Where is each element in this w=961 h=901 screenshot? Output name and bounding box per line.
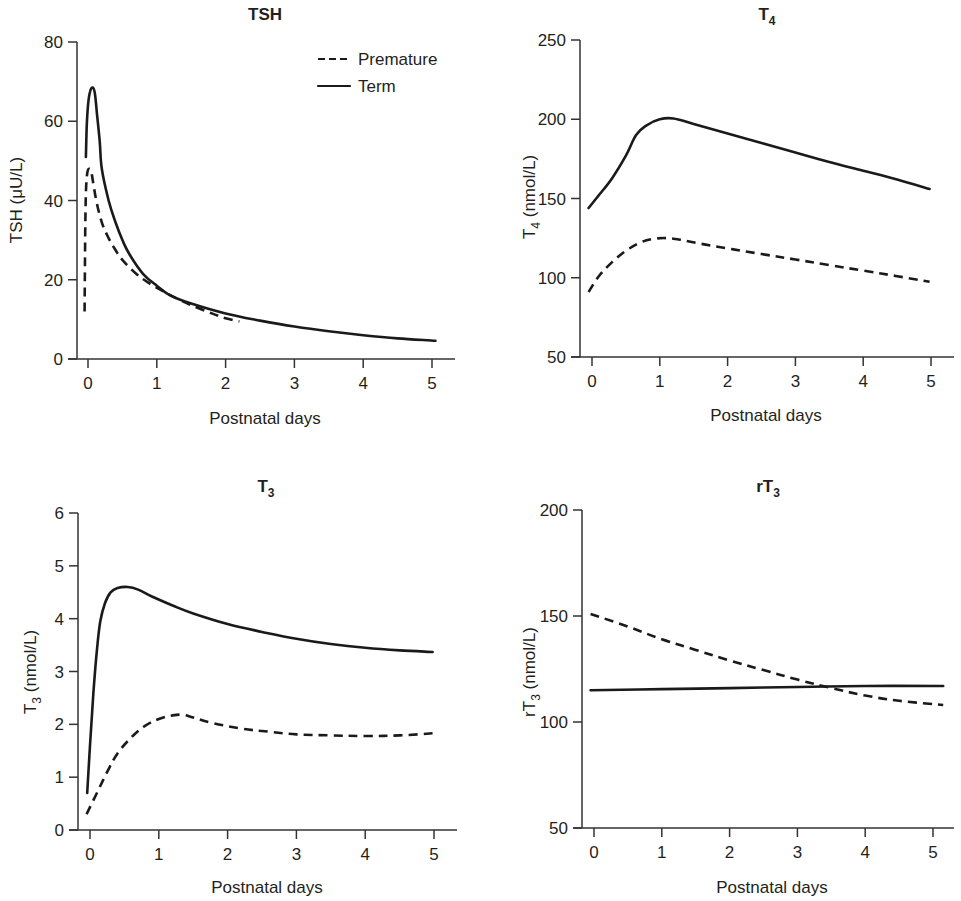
x-tick-label: 3 [793,843,802,862]
y-tick-label: 60 [44,112,63,131]
series-term [86,88,436,341]
plot-area: 50100150200012345 [540,501,954,862]
series-term [589,118,930,208]
y-axis-label: rT3 (nmol/L) [520,627,543,717]
y-tick-label: 200 [538,110,566,129]
y-tick-label: 50 [549,819,568,838]
y-tick-label: 1 [55,768,64,787]
y-tick-label: 0 [55,821,64,840]
panel-rt3: rT3 50100150200012345 Postnatal days rT3… [520,477,954,897]
x-tick-label: 0 [587,372,596,391]
y-tick-label: 2 [55,715,64,734]
y-tick-label: 100 [538,269,566,288]
x-tick-label: 3 [791,372,800,391]
series-term [87,587,432,793]
panel-t3: T3 0123456012345 Postnatal days T3 (nmol… [21,477,457,897]
x-tick-label: 3 [292,845,301,864]
series-premature [589,238,930,292]
x-tick-label: 4 [360,845,369,864]
x-tick-label: 5 [926,372,935,391]
x-tick-label: 5 [427,374,436,393]
panel-tsh: TSH 020406080012345 Postnatal days TSH (… [7,5,455,428]
x-tick-label: 1 [154,845,163,864]
y-axis-label: TSH (μU/L) [7,157,26,243]
x-tick-label: 3 [290,374,299,393]
x-tick-label: 2 [221,374,230,393]
y-tick-label: 150 [538,190,566,209]
x-axis-label: Postnatal days [710,406,822,425]
y-tick-label: 50 [547,348,566,367]
y-tick-label: 5 [55,557,64,576]
panel-title: T4 [758,5,775,28]
x-axis-label: Postnatal days [211,878,323,897]
y-tick-label: 150 [540,607,568,626]
plot-area: 50100150200250012345 [538,31,954,391]
x-tick-label: 2 [223,845,232,864]
series-premature [85,169,240,322]
series-premature [591,614,944,705]
y-tick-label: 200 [540,501,568,520]
y-tick-label: 100 [540,713,568,732]
y-axis-label: T3 (nmol/L) [21,630,44,714]
x-tick-label: 0 [83,374,92,393]
x-tick-label: 1 [152,374,161,393]
y-tick-label: 20 [44,271,63,290]
legend-label-term: Term [358,77,396,96]
series-term [591,686,944,690]
panel-title: rT3 [756,477,780,500]
x-tick-label: 4 [860,843,869,862]
y-tick-label: 0 [54,350,63,369]
x-axis-label: Postnatal days [209,409,321,428]
x-tick-label: 2 [723,372,732,391]
y-tick-label: 3 [55,663,64,682]
x-tick-label: 1 [657,843,666,862]
x-tick-label: 5 [928,843,937,862]
x-tick-label: 0 [589,843,598,862]
x-tick-label: 4 [858,372,867,391]
legend-label-premature: Premature [358,50,437,69]
panel-title: T3 [257,477,274,500]
x-tick-label: 0 [85,845,94,864]
x-axis-label: Postnatal days [716,878,828,897]
y-tick-label: 40 [44,192,63,211]
y-tick-label: 80 [44,33,63,52]
x-tick-label: 5 [429,845,438,864]
x-tick-label: 4 [358,374,367,393]
plot-area: 0123456012345 [55,504,457,864]
y-tick-label: 6 [55,504,64,523]
panel-t4: T4 50100150200250012345 Postnatal days T… [520,5,954,425]
panel-title: TSH [248,5,282,24]
y-tick-label: 4 [55,610,64,629]
x-tick-label: 1 [655,372,664,391]
series-premature [87,715,433,815]
y-tick-label: 250 [538,31,566,50]
x-tick-label: 2 [725,843,734,862]
legend: Premature Term [318,50,437,96]
figure-canvas: TSH 020406080012345 Postnatal days TSH (… [0,0,961,901]
